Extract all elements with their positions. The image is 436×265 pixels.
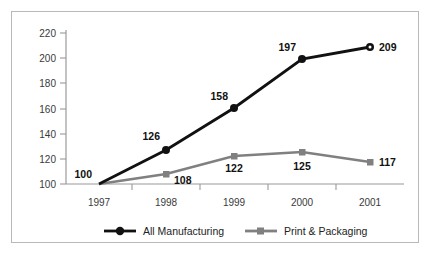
data-point-marker (163, 171, 170, 178)
data-point-marker-center (369, 46, 372, 49)
x-axis-tick-labels: 1997 1998 1999 2000 2001 (88, 197, 382, 208)
value-label-2000: 197 (278, 41, 296, 53)
value-label-1998: 108 (174, 174, 192, 186)
data-point-marker (231, 153, 238, 160)
chart-canvas: 220 200 180 160 140 120 100 1997 1998 19… (0, 0, 436, 265)
legend-square-marker-icon (257, 228, 264, 235)
x-tick-label: 2001 (359, 197, 382, 208)
value-label-1997: 100 (74, 168, 92, 180)
y-tick-label: 220 (39, 28, 56, 39)
data-point-marker (162, 146, 170, 154)
data-point-marker (367, 159, 374, 166)
value-label-1998: 126 (142, 130, 160, 142)
value-label-2001: 117 (379, 156, 396, 168)
value-label-2000: 125 (293, 160, 311, 172)
legend-label-all-manufacturing: All Manufacturing (143, 225, 224, 237)
data-point-marker (298, 55, 306, 63)
line-chart: 220 200 180 160 140 120 100 1997 1998 19… (0, 0, 436, 265)
legend-label-print-packaging: Print & Packaging (284, 225, 368, 237)
data-point-marker (299, 149, 306, 156)
legend-item-all-manufacturing[interactable]: All Manufacturing (104, 225, 224, 237)
y-tick-label: 200 (39, 53, 56, 64)
x-tick-label: 2000 (291, 197, 314, 208)
legend-circle-marker-icon (116, 227, 124, 235)
y-tick-label: 140 (39, 129, 56, 140)
y-tick-label: 120 (39, 154, 56, 165)
x-tick-label: 1998 (155, 197, 178, 208)
value-label-1999: 122 (225, 162, 243, 174)
y-axis-tick-labels: 220 200 180 160 140 120 100 (39, 28, 56, 190)
y-tick-label: 100 (39, 179, 56, 190)
y-tick-label: 160 (39, 104, 56, 115)
x-axis-ticks (132, 184, 336, 190)
x-tick-label: 1997 (88, 197, 111, 208)
value-label-2001: 209 (379, 41, 397, 53)
legend-item-print-packaging[interactable]: Print & Packaging (245, 225, 368, 237)
chart-legend: All Manufacturing Print & Packaging (104, 225, 368, 237)
data-point-marker (230, 104, 238, 112)
y-axis-ticks (60, 33, 66, 184)
value-label-1999: 158 (210, 90, 228, 102)
x-tick-label: 1999 (223, 197, 246, 208)
y-tick-label: 180 (39, 78, 56, 89)
